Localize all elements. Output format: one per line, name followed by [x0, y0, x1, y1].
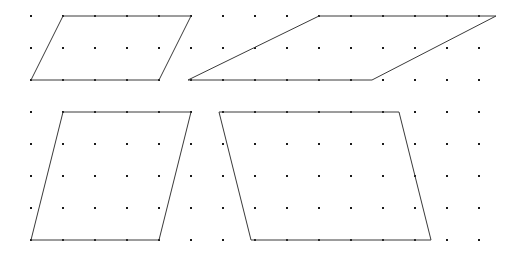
grid-dot: [446, 239, 448, 241]
grid-dot: [158, 207, 160, 209]
grid-dot: [350, 207, 352, 209]
grid-dot: [254, 143, 256, 145]
grid-dot: [318, 175, 320, 177]
grid-dot: [318, 143, 320, 145]
grid-dot: [126, 175, 128, 177]
grid-dot: [190, 207, 192, 209]
grid-dot: [30, 143, 32, 145]
grid-dot: [30, 47, 32, 49]
grid-dot: [286, 47, 288, 49]
grid-dot: [350, 175, 352, 177]
grid-dot: [222, 15, 224, 17]
grid-dot: [254, 175, 256, 177]
figure-canvas: [0, 0, 525, 259]
grid-dot: [478, 79, 480, 81]
grid-dot: [190, 239, 192, 241]
grid-dot: [286, 143, 288, 145]
grid-dot: [478, 207, 480, 209]
grid-dot: [222, 175, 224, 177]
grid-dot: [126, 207, 128, 209]
grid-dot: [62, 143, 64, 145]
grid-dot: [222, 143, 224, 145]
grid-dot: [478, 111, 480, 113]
grid-dot: [382, 207, 384, 209]
grid-dot: [190, 143, 192, 145]
grid-dot: [286, 175, 288, 177]
grid-dot: [62, 175, 64, 177]
grid-dot: [478, 175, 480, 177]
grid-dot: [478, 143, 480, 145]
grid-dot: [158, 143, 160, 145]
grid-dot: [30, 175, 32, 177]
grid-dot: [254, 15, 256, 17]
grid-dot: [126, 143, 128, 145]
grid-dot: [382, 47, 384, 49]
grid-dot: [94, 207, 96, 209]
grid-dot: [62, 207, 64, 209]
grid-dot: [478, 239, 480, 241]
grid-dot: [286, 207, 288, 209]
parallelogram-top-left: [31, 16, 191, 80]
grid-dot: [414, 79, 416, 81]
grid-dot: [318, 207, 320, 209]
grid-dot: [414, 143, 416, 145]
parallelogram-bottom-right: [219, 112, 431, 240]
grid-dot: [94, 47, 96, 49]
grid-dot: [190, 175, 192, 177]
grid-dot: [30, 111, 32, 113]
grid-dot: [190, 47, 192, 49]
grid-dot: [222, 239, 224, 241]
grid-dot: [414, 111, 416, 113]
grid-dot: [382, 79, 384, 81]
grid-dot: [350, 143, 352, 145]
grid-dot: [94, 175, 96, 177]
grid-dot: [158, 47, 160, 49]
grid-dot: [446, 207, 448, 209]
dot-grid-layer: [30, 15, 480, 241]
grid-dot: [222, 207, 224, 209]
grid-dot: [382, 143, 384, 145]
parallelogram-layer: [31, 16, 496, 240]
grid-dot: [62, 47, 64, 49]
parallelogram-top-right: [188, 16, 496, 80]
grid-dot: [30, 207, 32, 209]
grid-dot: [286, 15, 288, 17]
grid-dot: [94, 143, 96, 145]
grid-dot: [414, 207, 416, 209]
grid-dot: [382, 175, 384, 177]
grid-dot: [414, 47, 416, 49]
grid-dot: [350, 47, 352, 49]
grid-dot: [446, 143, 448, 145]
parallelogram-bottom-left: [31, 112, 191, 240]
grid-dot: [446, 47, 448, 49]
grid-dot: [446, 79, 448, 81]
parallelogram-diagram: [0, 0, 525, 259]
grid-dot: [318, 47, 320, 49]
grid-dot: [446, 111, 448, 113]
grid-dot: [158, 175, 160, 177]
grid-dot: [126, 47, 128, 49]
grid-dot: [222, 47, 224, 49]
grid-dot: [254, 207, 256, 209]
grid-dot: [446, 175, 448, 177]
grid-dot: [30, 15, 32, 17]
grid-dot: [478, 47, 480, 49]
